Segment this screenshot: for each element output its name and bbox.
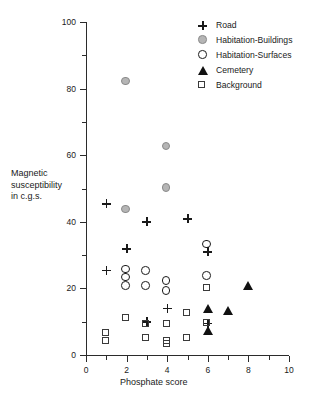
data-point-background-1 (102, 337, 109, 344)
data-point-road-5 (163, 304, 172, 313)
data-point-habitation-buildings-2 (162, 142, 171, 151)
data-point-background-0 (102, 329, 109, 336)
data-point-habitation-surfaces-4 (141, 281, 150, 290)
data-point-background-7 (163, 340, 170, 347)
chart-legend: RoadHabitation-BuildingsHabitation-Surfa… (196, 18, 316, 93)
data-point-cemetery-1 (203, 326, 213, 335)
data-point-cemetery-0 (203, 304, 213, 313)
open-circle-icon (196, 50, 210, 61)
data-point-habitation-buildings-1 (121, 205, 130, 214)
data-point-background-2 (122, 314, 129, 321)
data-point-cemetery-3 (243, 281, 253, 290)
data-point-habitation-buildings-3 (162, 183, 171, 192)
legend-item-road: Road (196, 18, 316, 33)
legend-item-cemetery: Cemetery (196, 63, 316, 78)
plus-icon (196, 20, 210, 31)
data-point-habitation-surfaces-1 (121, 273, 130, 282)
data-point-background-10 (203, 284, 210, 291)
legend-label: Habitation-Surfaces (216, 50, 291, 61)
filled-triangle-icon (196, 65, 210, 76)
data-point-cemetery-2 (223, 306, 233, 315)
scatter-chart-figure: 0204060801000246810 Phosphate score Magn… (0, 0, 317, 393)
data-point-background-11 (203, 319, 210, 326)
data-point-habitation-surfaces-7 (202, 240, 211, 249)
legend-label: Cemetery (216, 65, 253, 76)
data-point-road-2 (122, 244, 131, 253)
legend-item-habitation-buildings: Habitation-Buildings (196, 33, 316, 48)
legend-label: Background (216, 80, 262, 91)
data-point-road-0 (102, 199, 111, 208)
data-point-road-6 (183, 214, 192, 223)
legend-item-habitation-surfaces: Habitation-Surfaces (196, 48, 316, 63)
data-point-road-7 (203, 247, 212, 256)
data-point-habitation-surfaces-8 (202, 271, 211, 280)
data-point-habitation-surfaces-6 (162, 286, 171, 295)
legend-label: Road (216, 20, 237, 31)
data-point-road-1 (102, 266, 111, 275)
open-square-icon (196, 80, 210, 91)
data-point-background-5 (163, 320, 170, 327)
data-point-habitation-surfaces-5 (162, 276, 171, 285)
data-point-habitation-surfaces-0 (121, 265, 130, 274)
legend-item-background: Background (196, 78, 316, 93)
data-point-background-9 (183, 334, 190, 341)
data-point-habitation-buildings-0 (121, 77, 130, 86)
legend-label: Habitation-Buildings (216, 35, 292, 46)
data-point-road-3 (142, 217, 151, 226)
data-point-habitation-surfaces-2 (121, 281, 130, 290)
data-point-habitation-surfaces-3 (141, 266, 150, 275)
data-point-background-3 (142, 320, 149, 327)
data-point-background-4 (142, 334, 149, 341)
data-point-background-8 (183, 309, 190, 316)
filled-circle-gray-icon (196, 35, 210, 46)
